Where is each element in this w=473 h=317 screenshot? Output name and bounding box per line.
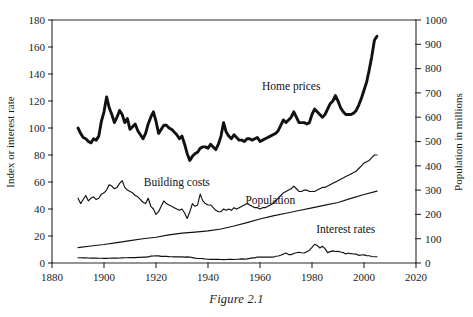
y2-axis-title: Population in millions xyxy=(452,93,464,191)
left-tick-label: 180 xyxy=(29,14,46,26)
series-annotations: Home pricesBuilding costsPopulationInter… xyxy=(144,80,376,235)
x-tick-label: 1940 xyxy=(197,271,220,283)
left-tick-label: 80 xyxy=(34,149,46,161)
right-axis-ticks: 01002003004005006007008009001000 xyxy=(415,14,448,269)
right-tick-label: 700 xyxy=(425,87,442,99)
right-tick-label: 900 xyxy=(425,38,442,50)
right-tick-label: 100 xyxy=(425,233,442,245)
figure-container: 020406080100120140160180 010020030040050… xyxy=(0,0,473,317)
left-tick-label: 120 xyxy=(29,95,46,107)
figure-caption: Figure 2.1 xyxy=(0,292,473,307)
x-tick-label: 2000 xyxy=(353,271,376,283)
annotation-interest-rates: Interest rates xyxy=(316,223,376,235)
left-tick-label: 100 xyxy=(29,122,46,134)
x-tick-label: 1880 xyxy=(41,271,64,283)
series-line-population xyxy=(78,191,377,248)
annotation-population: Population xyxy=(245,194,295,207)
annotation-home-prices: Home prices xyxy=(262,80,321,93)
right-tick-label: 300 xyxy=(425,184,442,196)
y-axis-title: Index or interest rate xyxy=(4,96,16,187)
left-tick-label: 160 xyxy=(29,41,46,53)
right-tick-label: 0 xyxy=(425,257,431,269)
left-tick-label: 60 xyxy=(34,176,46,188)
left-tick-label: 20 xyxy=(34,230,46,242)
series-line-building-costs xyxy=(78,155,377,218)
series-line-home-prices xyxy=(78,36,377,160)
x-tick-label: 1960 xyxy=(249,271,272,283)
series-line-interest-rates xyxy=(78,244,377,259)
right-tick-label: 500 xyxy=(425,135,442,147)
right-tick-label: 600 xyxy=(425,111,442,123)
x-tick-label: 1920 xyxy=(145,271,168,283)
x-tick-label: 1980 xyxy=(301,271,324,283)
left-tick-label: 0 xyxy=(40,257,46,269)
left-axis-ticks: 020406080100120140160180 xyxy=(29,14,54,269)
left-tick-label: 140 xyxy=(29,68,46,80)
left-tick-label: 40 xyxy=(34,203,46,215)
right-tick-label: 400 xyxy=(425,160,442,172)
right-tick-label: 800 xyxy=(425,62,442,74)
home-prices-chart: 020406080100120140160180 010020030040050… xyxy=(0,0,473,317)
annotation-building-costs: Building costs xyxy=(144,176,211,189)
x-tick-label: 2020 xyxy=(405,271,428,283)
right-tick-label: 200 xyxy=(425,208,442,220)
x-tick-label: 1900 xyxy=(93,271,116,283)
right-tick-label: 1000 xyxy=(425,14,448,26)
x-axis-ticks: 18801900192019401960198020002020 xyxy=(41,262,428,283)
